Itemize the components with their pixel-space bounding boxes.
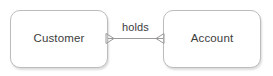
entity-customer-label: Customer: [33, 33, 84, 45]
entity-account-label: Account: [191, 33, 234, 45]
relationship-label: holds: [108, 22, 163, 33]
entity-customer[interactable]: Customer: [10, 10, 108, 68]
entity-account[interactable]: Account: [163, 10, 261, 68]
er-diagram-canvas: Customer Account holds: [0, 0, 273, 76]
